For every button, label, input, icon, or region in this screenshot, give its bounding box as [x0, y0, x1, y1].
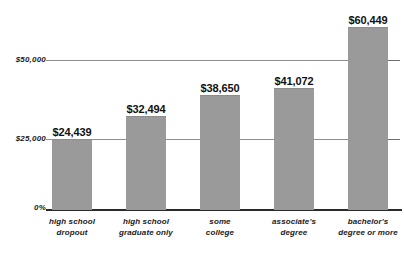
bar-group: $24,439 [52, 140, 92, 210]
x-axis-category-label: bachelor'sdegree or more [318, 216, 404, 238]
bar[interactable]: $24,439 [52, 139, 92, 210]
bars-layer: $24,439high schooldropout$32,494high sch… [0, 0, 404, 254]
bar-value-label: $38,650 [200, 82, 239, 94]
bar[interactable]: $38,650 [200, 95, 240, 210]
bar-value-label: $41,072 [274, 75, 313, 87]
bar-chart: $50,000 $25,000 0% $24,439high schooldro… [0, 0, 404, 254]
bar-group: $32,494 [126, 117, 166, 210]
category-label-line: bachelor's [318, 216, 404, 227]
bar-group: $41,072 [274, 89, 314, 210]
bar[interactable]: $32,494 [126, 116, 166, 210]
category-label-line: degree or more [318, 227, 404, 238]
bar-value-label: $24,439 [52, 126, 91, 138]
bar-group: $60,449 [348, 28, 388, 210]
bar-value-label: $60,449 [348, 14, 387, 26]
bar-group: $38,650 [200, 96, 240, 210]
bar-value-label: $32,494 [126, 103, 165, 115]
bar[interactable]: $41,072 [274, 88, 314, 210]
bar[interactable]: $60,449 [348, 27, 388, 210]
